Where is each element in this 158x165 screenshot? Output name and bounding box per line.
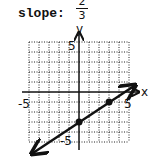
- point: [76, 119, 83, 126]
- tick-y-min: -5: [60, 134, 72, 148]
- tick-y-max: 5: [68, 39, 76, 53]
- coordinate-graph: y x 5 -5 -5 5: [0, 0, 158, 165]
- x-axis-label: x: [141, 85, 148, 99]
- y-axis-label: y: [76, 22, 83, 36]
- tick-x-min: -5: [18, 97, 30, 111]
- tick-x-max: 5: [124, 97, 132, 111]
- point: [106, 99, 113, 106]
